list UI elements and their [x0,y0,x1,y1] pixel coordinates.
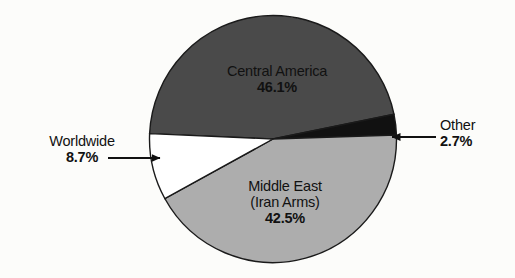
slice-label-central-america-name: Central America [199,63,355,79]
slice-label-worldwide-name: Worldwide [26,133,138,149]
slice-label-middle-east-subname: (Iran Arms) [216,194,354,210]
slice-label-other: Other 2.7% [440,117,510,149]
slice-label-worldwide: Worldwide 8.7% [26,133,138,165]
slice-label-central-america: Central America 46.1% [199,63,355,95]
pie-chart-figure: Central America 46.1% Middle East (Iran … [0,0,515,278]
slice-label-other-value: 2.7% [440,133,510,149]
slice-label-worldwide-value: 8.7% [26,149,138,165]
slice-label-middle-east-name: Middle East [216,178,354,194]
slice-label-middle-east-value: 42.5% [216,210,354,226]
slice-label-other-name: Other [440,117,510,133]
slice-label-central-america-value: 46.1% [199,79,355,95]
slice-label-middle-east: Middle East (Iran Arms) 42.5% [216,178,354,227]
